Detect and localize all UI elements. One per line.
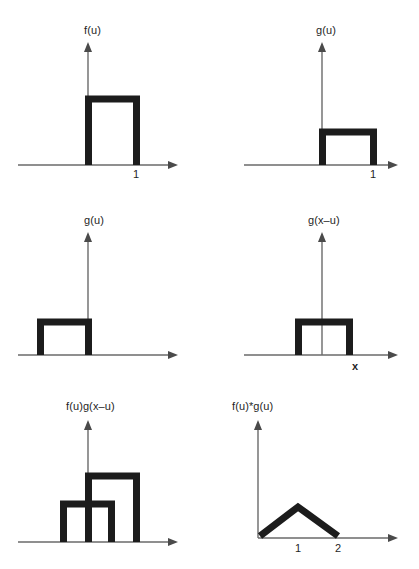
y-axis-arrowhead (318, 232, 326, 242)
panel-f-u: f(u) 1 (0, 0, 209, 190)
y-axis-arrowhead (254, 420, 262, 430)
x-tick-label-1: 1 (370, 168, 376, 180)
y-axis-arrowhead (84, 232, 92, 242)
pulse-g-u-mid (41, 322, 89, 355)
pulse-g-x-minus-u (299, 322, 350, 355)
x-axis-arrowhead (388, 161, 398, 169)
x-tick-label-1: 1 (133, 168, 139, 180)
plot-convolution (210, 380, 419, 569)
x-axis-arrowhead (168, 161, 178, 169)
y-axis-arrowhead (84, 420, 92, 430)
panel-g-u-top: g(u) 1 (210, 0, 419, 190)
plot-g-x-minus-u (210, 190, 419, 380)
x-axis-arrowhead (388, 351, 398, 359)
convolution-figure: f(u) 1 g(u) 1 g(u) (0, 0, 419, 569)
y-axis-arrowhead (318, 42, 326, 52)
triangle-convolution (260, 507, 338, 536)
plot-g-u-top (210, 0, 419, 190)
pulse-g-u-top (323, 132, 374, 165)
x-tick-label-1: 1 (295, 542, 301, 554)
y-axis-arrowhead (84, 42, 92, 52)
pulse-f-u (89, 99, 137, 165)
plot-g-u-mid (0, 190, 209, 380)
panel-g-u-mid: g(u) (0, 190, 209, 380)
panel-g-x-minus-u: g(x–u) x (210, 190, 419, 380)
plot-f-u (0, 0, 209, 190)
x-tick-label-2: 2 (335, 542, 341, 554)
plot-product (0, 380, 209, 569)
panel-convolution: f(u)*g(u) 1 2 (210, 380, 419, 569)
x-axis-arrowhead (168, 351, 178, 359)
panel-product: f(u)g(x–u) (0, 380, 209, 569)
x-axis-arrowhead (388, 534, 398, 542)
x-axis-arrowhead (168, 538, 178, 546)
x-axis-label: x (352, 360, 358, 372)
